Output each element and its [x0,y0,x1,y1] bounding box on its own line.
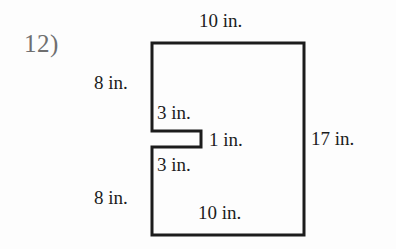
dimension-label-notch-upper: 3 in. [157,103,191,122]
dimension-label-notch-depth: 1 in. [209,130,243,149]
dimension-label-left-lower: 8 in. [94,188,128,207]
dimension-label-bottom-width: 10 in. [198,203,241,222]
dimension-label-top-width: 10 in. [199,11,242,30]
worksheet-page: 12) 10 in. 8 in. 3 in. 1 in. 3 in. 8 in.… [0,0,396,249]
dimension-label-right-height: 17 in. [311,129,354,148]
dimension-label-notch-lower: 3 in. [157,155,191,174]
dimension-label-left-upper: 8 in. [94,73,128,92]
